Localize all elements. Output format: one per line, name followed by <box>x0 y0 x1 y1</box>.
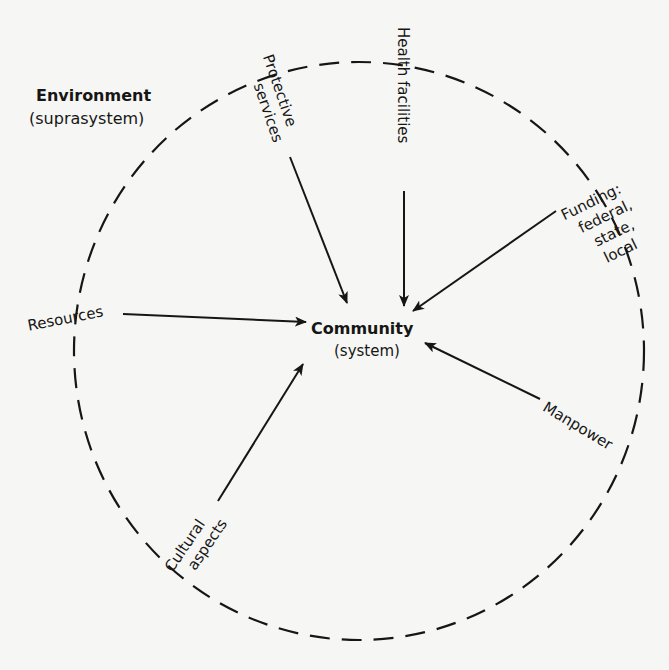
label-health-facilities: Health facilities <box>394 27 412 143</box>
community-label: Community <box>311 320 413 338</box>
environment-label: Environment <box>36 87 151 105</box>
arrow-manpower <box>425 343 540 399</box>
arrow-cultural-aspects <box>218 364 303 501</box>
arrow-protective-services <box>290 157 347 303</box>
arrow-resources <box>123 314 306 322</box>
arrow-funding <box>413 211 556 311</box>
environment-sublabel: (suprasystem) <box>29 110 144 128</box>
community-sublabel: (system) <box>334 342 400 360</box>
